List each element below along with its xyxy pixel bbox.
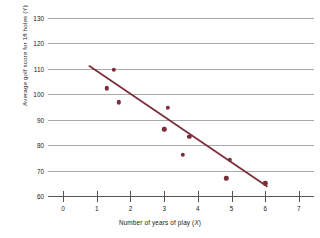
- x-tick-label-2: 2: [129, 205, 133, 212]
- x-tick-label-3: 3: [162, 205, 166, 212]
- x-tick-label-1: 1: [95, 205, 99, 212]
- data-point: [117, 100, 121, 104]
- data-point: [224, 176, 228, 180]
- plot-area: 60708090100110120130 01234567: [48, 10, 314, 198]
- gridline-y-110: [48, 69, 314, 70]
- y-axis-label: Average golf score for 18 holes (Y): [21, 0, 28, 126]
- data-point: [228, 158, 232, 162]
- y-tick-label-90: 90: [37, 116, 44, 123]
- data-point: [105, 86, 109, 90]
- x-tick-mark-1: [97, 191, 98, 202]
- x-tick-mark-3: [164, 191, 165, 202]
- x-axis-label: Number of years of play (X): [0, 219, 320, 226]
- y-tick-label-100: 100: [33, 91, 44, 98]
- y-tick-label-110: 110: [34, 65, 44, 72]
- x-tick-mark-4: [198, 191, 199, 202]
- x-tick-mark-0: [63, 191, 64, 202]
- x-tick-label-7: 7: [297, 205, 301, 212]
- x-tick-label-4: 4: [196, 205, 200, 212]
- y-tick-label-70: 70: [37, 167, 44, 174]
- x-tick-label-6: 6: [263, 205, 267, 212]
- y-tick-label-80: 80: [37, 142, 44, 149]
- x-tick-mark-6: [265, 191, 266, 202]
- data-point: [187, 135, 191, 139]
- data-point: [180, 153, 184, 157]
- data-point: [111, 68, 115, 72]
- x-tick-mark-2: [130, 191, 131, 202]
- y-tick-label-120: 120: [33, 40, 44, 47]
- data-point: [165, 105, 169, 109]
- gridline-y-120: [48, 43, 314, 44]
- x-tick-label-5: 5: [230, 205, 234, 212]
- x-tick-mark-7: [299, 191, 300, 202]
- x-axis-line: [48, 196, 314, 197]
- data-point: [162, 127, 166, 131]
- data-point: [263, 181, 267, 185]
- gridline-y-90: [48, 120, 314, 121]
- y-tick-label-130: 130: [33, 14, 44, 21]
- gridline-y-100: [48, 94, 314, 95]
- gridline-y-80: [48, 145, 314, 146]
- gridline-y-130: [48, 18, 314, 19]
- gridline-y-70: [48, 171, 314, 172]
- scatter-chart-figure: Average golf score for 18 holes (Y) 6070…: [0, 0, 320, 238]
- y-tick-label-60: 60: [37, 193, 44, 200]
- x-tick-label-0: 0: [61, 205, 65, 212]
- x-tick-mark-5: [232, 191, 233, 202]
- trendline-segment: [89, 66, 266, 186]
